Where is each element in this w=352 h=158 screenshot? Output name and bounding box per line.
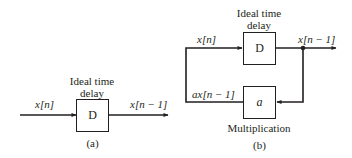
branch-node: [301, 46, 306, 51]
caption-a: (a): [80, 137, 105, 149]
delay-title-b-line2: delay: [229, 19, 289, 31]
output-label-b: x[n − 1]: [298, 33, 335, 45]
multiplier-block-label-b: a: [243, 96, 276, 108]
diagram-canvas: [0, 0, 352, 158]
delay-title-a-line2: delay: [62, 87, 122, 99]
input-label-a: x[n]: [35, 98, 54, 110]
delay-title-b: Ideal time delay: [229, 7, 289, 31]
caption-b: (b): [247, 139, 272, 151]
delay-block-label-b: D: [243, 42, 276, 54]
delay-title-b-line1: Ideal time: [229, 7, 289, 19]
input-label-b: x[n]: [197, 33, 216, 45]
branch-path: [277, 48, 303, 102]
output-label-a: x[n − 1]: [130, 98, 167, 110]
feedback-label-b: ax[n − 1]: [192, 88, 235, 100]
delay-title-a-line1: Ideal time: [62, 75, 122, 87]
delay-title-a: Ideal time delay: [62, 75, 122, 99]
multiplier-title-b: Multiplication: [224, 122, 294, 134]
delay-block-label-a: D: [76, 109, 109, 121]
